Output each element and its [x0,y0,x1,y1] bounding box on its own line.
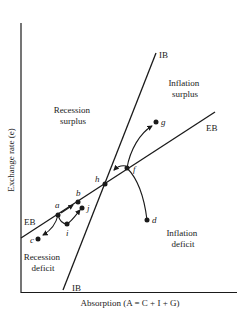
ib-label-bottom: IB [72,283,81,293]
point-label-i: i [66,228,69,238]
point-f [125,166,130,171]
point-label-b: b [76,188,81,198]
point-a [56,213,61,218]
path-d-to-f [127,168,147,220]
balance-diagram: Exchange rate (e) Absorption (A = C + I … [0,0,244,310]
y-axis-label: Exchange rate (e) [6,128,16,191]
region-inflation-surplus: Inflation surplus [168,78,201,99]
ib-label-top: IB [159,50,168,60]
arrow-f-to-h [114,166,126,170]
point-label-c: c [30,235,34,245]
point-label-g: g [161,117,166,127]
eb-label-right: EB [206,123,218,133]
point-i [65,222,70,227]
point-label-a: a [55,200,60,210]
point-labels: a b c d f g h i j [30,117,166,245]
point-d [145,218,150,223]
region-recession-deficit: Recession deficit [24,252,63,273]
eb-line [21,112,215,238]
point-label-j: j [86,203,90,213]
path-a-to-b [61,205,73,213]
point-label-d: d [152,215,157,225]
eb-label-left: EB [24,217,36,227]
path-a-to-c [43,215,58,235]
point-b [76,200,81,205]
path-i-to-j [67,210,80,224]
point-c [36,237,41,242]
point-g [154,120,159,125]
region-recession-surplus: Recession surplus [54,105,93,126]
point-h [103,182,108,187]
region-inflation-deficit: Inflation deficit [166,228,199,249]
x-axis-label: Absorption (A = C + I + G) [81,298,180,308]
point-j [80,206,85,211]
point-label-f: f [133,164,137,174]
point-label-h: h [95,174,100,184]
ib-line [63,53,156,290]
